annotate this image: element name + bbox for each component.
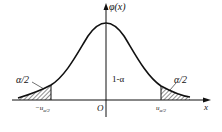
right-cutoff-label: uα/2 xyxy=(156,104,167,113)
left-cutoff-label: −uα/2 xyxy=(35,104,50,113)
center-area-label: 1-α xyxy=(112,74,124,84)
y-axis-label: φ(x) xyxy=(109,1,126,13)
origin-label: O xyxy=(97,103,104,113)
y-axis-arrow-icon xyxy=(104,3,109,10)
right-tail-label: α/2 xyxy=(174,74,187,85)
left-cutoff-sub: α/2 xyxy=(43,108,50,113)
x-axis-label: x xyxy=(203,102,208,112)
normal-distribution-diagram: φ(x) 1-α α/2 α/2 O x −uα/2 uα/2 xyxy=(0,0,222,132)
density-curve xyxy=(18,23,190,98)
right-cutoff-sub: α/2 xyxy=(160,108,167,113)
left-tail-leader xyxy=(32,82,44,89)
left-tail-label: α/2 xyxy=(16,74,29,85)
